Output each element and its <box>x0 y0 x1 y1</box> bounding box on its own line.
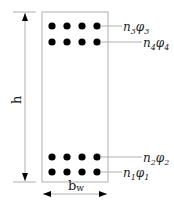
rebar-dot <box>93 168 100 175</box>
rebar-layer-bottom-1 <box>48 168 100 175</box>
layer-label-n2-phi2: n2φ2 <box>143 151 169 167</box>
layer-label-n4-phi4: n4φ4 <box>143 36 169 52</box>
rebar-dot <box>48 153 55 160</box>
rebar-dot <box>93 153 100 160</box>
rebar-dot <box>78 22 85 29</box>
rebar-dot <box>93 22 100 29</box>
rebar-layer-top-2 <box>48 38 100 45</box>
width-label: bw <box>68 178 84 193</box>
rebar-dot <box>78 153 85 160</box>
rebar-dot <box>78 168 85 175</box>
layer-label-n1-phi1: n1φ1 <box>123 166 149 182</box>
rebar-dot <box>78 38 85 45</box>
rebar-dot <box>48 168 55 175</box>
rebar-dot <box>48 38 55 45</box>
height-label: h <box>9 95 24 104</box>
rebar-layer-top-1 <box>48 22 100 29</box>
rebar-dot <box>93 38 100 45</box>
rebar-dot <box>63 168 70 175</box>
rebar-layer-bottom-2 <box>48 153 100 160</box>
rebar-dot <box>48 22 55 29</box>
rebar-dot <box>63 38 70 45</box>
rebar-dot <box>63 153 70 160</box>
beam-section-diagram: h n3φ3 n4φ4 n2φ2 n1φ1 <box>0 0 174 206</box>
rebar-dot <box>63 22 70 29</box>
layer-label-n3-phi3: n3φ3 <box>123 20 149 36</box>
